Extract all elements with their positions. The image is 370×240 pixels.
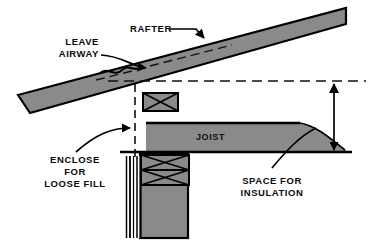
enclose-label-line1: ENCLOSE — [50, 154, 100, 165]
construction-detail-figure: LEAVE AIRWAY RAFTER JOIST ENCLOSE FOR LO… — [0, 0, 370, 240]
leave-airway-label-line1: LEAVE — [65, 36, 99, 47]
space-insulation-label-line1: SPACE FOR — [242, 175, 302, 186]
joist-label: JOIST — [196, 132, 225, 142]
enclose-label-line3: LOOSE FILL — [44, 178, 105, 189]
rafter-label: RAFTER — [130, 23, 172, 34]
leave-airway-label-line2: AIRWAY — [59, 48, 99, 59]
top-plate-mid — [141, 155, 189, 170]
wall-sheathing-lines — [125, 153, 141, 238]
enclose-label-line2: FOR — [64, 166, 86, 177]
top-plate-upper — [143, 93, 178, 111]
eave-detail-drawing: LEAVE AIRWAY RAFTER JOIST ENCLOSE FOR LO… — [0, 0, 370, 240]
top-plate-low — [141, 170, 189, 185]
space-insulation-label-line2: INSULATION — [241, 187, 304, 198]
